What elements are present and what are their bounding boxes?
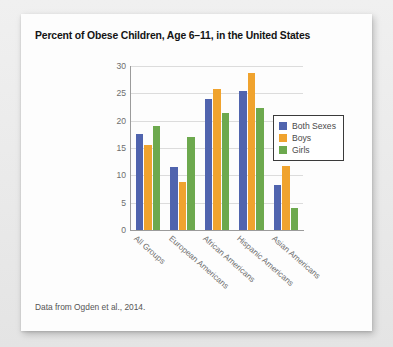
y-axis-tick-label: 30 xyxy=(116,61,126,71)
y-axis-tick-label: 0 xyxy=(121,225,126,235)
bar xyxy=(239,91,247,230)
legend-swatch-icon xyxy=(279,146,287,154)
y-axis-tick-label: 15 xyxy=(116,143,126,153)
bar xyxy=(256,108,264,230)
bar xyxy=(187,137,195,230)
bar xyxy=(274,185,282,230)
figure-card: Percent of Obese Children, Age 6–11, in … xyxy=(21,14,372,331)
x-axis-tick-label: All Groups xyxy=(132,234,167,266)
x-label-cell: European Americans xyxy=(165,232,199,292)
bar-group xyxy=(234,66,268,230)
x-axis-line xyxy=(130,230,304,231)
legend-swatch-icon xyxy=(279,134,287,142)
x-axis-tick-label: Asian Americans xyxy=(270,234,322,281)
legend-label: Boys xyxy=(292,133,311,143)
x-label-cell: Hispanic Americans xyxy=(234,232,268,292)
x-label-cell: All Groups xyxy=(131,232,165,292)
bar xyxy=(282,166,290,230)
legend-label: Girls xyxy=(292,145,310,155)
x-label-cell: Asian Americans xyxy=(269,232,303,292)
bar-group xyxy=(200,66,234,230)
y-axis-tick-label: 10 xyxy=(116,170,126,180)
bar xyxy=(213,89,221,230)
bar xyxy=(144,145,152,230)
y-axis-tick-label: 20 xyxy=(116,116,126,126)
legend-swatch-icon xyxy=(279,122,287,130)
legend-item: Girls xyxy=(279,144,336,156)
bar xyxy=(205,99,213,230)
bar xyxy=(248,73,256,230)
chart-legend: Both SexesBoysGirls xyxy=(273,115,344,161)
x-axis-labels: All GroupsEuropean AmericansAfrican Amer… xyxy=(131,232,303,292)
bar xyxy=(136,134,144,230)
legend-item: Boys xyxy=(279,132,336,144)
bar-group xyxy=(131,66,165,230)
bar xyxy=(170,167,178,230)
bar-group xyxy=(165,66,199,230)
chart-caption: Data from Ogden et al., 2014. xyxy=(35,302,145,312)
bar xyxy=(291,208,299,230)
y-axis-tick-label: 5 xyxy=(121,198,126,208)
legend-label: Both Sexes xyxy=(292,121,336,131)
y-axis-tick-label: 25 xyxy=(116,88,126,98)
bar xyxy=(222,113,230,230)
bar xyxy=(153,126,161,230)
legend-item: Both Sexes xyxy=(279,120,336,132)
bar xyxy=(179,182,187,230)
x-label-cell: African Americans xyxy=(200,232,234,292)
chart-title: Percent of Obese Children, Age 6–11, in … xyxy=(35,30,360,42)
